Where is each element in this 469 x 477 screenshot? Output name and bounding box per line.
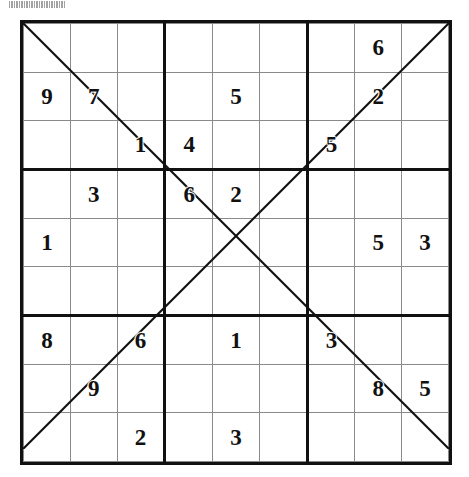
sudoku-cell-r1c5[interactable] xyxy=(213,24,260,73)
sudoku-cell-r6c1[interactable] xyxy=(24,267,71,316)
sudoku-cell-r5c9[interactable]: 3 xyxy=(402,218,449,267)
sudoku-cells-table: 69752145362153861398523 xyxy=(23,23,449,462)
sudoku-cell-r1c7[interactable] xyxy=(307,24,355,73)
sudoku-cell-r2c6[interactable] xyxy=(259,72,307,121)
cell-value: 3 xyxy=(213,426,259,449)
sudoku-cell-r2c4[interactable] xyxy=(165,72,213,121)
sudoku-cell-r4c5[interactable]: 2 xyxy=(213,169,260,218)
sudoku-cell-r8c9[interactable]: 5 xyxy=(402,364,449,413)
sudoku-cell-r3c5[interactable] xyxy=(213,121,260,170)
sudoku-cell-r3c3[interactable]: 1 xyxy=(117,121,165,170)
sudoku-grid[interactable]: 69752145362153861398523 xyxy=(20,20,452,465)
sudoku-cell-r5c4[interactable] xyxy=(165,218,213,267)
sudoku-cell-r9c7[interactable] xyxy=(307,413,355,462)
cell-value: 5 xyxy=(213,85,259,108)
sudoku-cell-r2c8[interactable]: 2 xyxy=(355,72,402,121)
sudoku-cell-r3c9[interactable] xyxy=(402,121,449,170)
sudoku-cell-r3c6[interactable] xyxy=(259,121,307,170)
sudoku-cell-r4c1[interactable] xyxy=(24,169,71,218)
sudoku-cell-r2c2[interactable]: 7 xyxy=(70,72,117,121)
sudoku-cell-r9c8[interactable] xyxy=(355,413,402,462)
sudoku-cell-r7c4[interactable] xyxy=(165,315,213,364)
sudoku-cell-r9c6[interactable] xyxy=(259,413,307,462)
sudoku-cell-r7c1[interactable]: 8 xyxy=(24,315,71,364)
sudoku-cell-r6c6[interactable] xyxy=(259,267,307,316)
sudoku-cell-r9c3[interactable]: 2 xyxy=(117,413,165,462)
sudoku-cell-r1c6[interactable] xyxy=(259,24,307,73)
sudoku-cell-r5c6[interactable] xyxy=(259,218,307,267)
sudoku-cell-r4c8[interactable] xyxy=(355,169,402,218)
scan-smudge-artifact xyxy=(9,1,65,8)
sudoku-cell-r7c6[interactable] xyxy=(259,315,307,364)
cell-value: 2 xyxy=(118,426,164,449)
cell-value: 5 xyxy=(309,133,355,156)
cell-value: 6 xyxy=(355,36,401,59)
sudoku-cell-r1c2[interactable] xyxy=(70,24,117,73)
sudoku-cell-r5c5[interactable] xyxy=(213,218,260,267)
sudoku-cell-r9c5[interactable]: 3 xyxy=(213,413,260,462)
sudoku-cell-r3c1[interactable] xyxy=(24,121,71,170)
cell-value: 9 xyxy=(24,85,70,108)
sudoku-cell-r8c4[interactable] xyxy=(165,364,213,413)
sudoku-cell-r4c3[interactable] xyxy=(117,169,165,218)
sudoku-cell-r2c9[interactable] xyxy=(402,72,449,121)
sudoku-cell-r5c7[interactable] xyxy=(307,218,355,267)
sudoku-cell-r2c1[interactable]: 9 xyxy=(24,72,71,121)
sudoku-cell-r1c9[interactable] xyxy=(402,24,449,73)
sudoku-cell-r3c7[interactable]: 5 xyxy=(307,121,355,170)
sudoku-cell-r7c5[interactable]: 1 xyxy=(213,315,260,364)
sudoku-cell-r1c1[interactable] xyxy=(24,24,71,73)
cell-value: 4 xyxy=(166,133,212,156)
sudoku-cell-r5c3[interactable] xyxy=(117,218,165,267)
cell-value: 6 xyxy=(118,329,164,352)
sudoku-cell-r6c8[interactable] xyxy=(355,267,402,316)
sudoku-cell-r2c7[interactable] xyxy=(307,72,355,121)
sudoku-cell-r6c2[interactable] xyxy=(70,267,117,316)
sudoku-cell-r7c3[interactable]: 6 xyxy=(117,315,165,364)
sudoku-cell-r6c9[interactable] xyxy=(402,267,449,316)
sudoku-row: 9752 xyxy=(24,72,449,121)
sudoku-cell-r6c7[interactable] xyxy=(307,267,355,316)
sudoku-cell-r3c4[interactable]: 4 xyxy=(165,121,213,170)
sudoku-cell-r7c9[interactable] xyxy=(402,315,449,364)
sudoku-cell-r4c6[interactable] xyxy=(259,169,307,218)
sudoku-cell-r5c1[interactable]: 1 xyxy=(24,218,71,267)
cell-value: 7 xyxy=(71,85,117,108)
sudoku-cell-r2c3[interactable] xyxy=(117,72,165,121)
sudoku-cell-r5c2[interactable] xyxy=(70,218,117,267)
sudoku-cell-r4c7[interactable] xyxy=(307,169,355,218)
sudoku-cell-r4c2[interactable]: 3 xyxy=(70,169,117,218)
sudoku-cell-r6c4[interactable] xyxy=(165,267,213,316)
sudoku-cell-r1c3[interactable] xyxy=(117,24,165,73)
sudoku-cell-r8c3[interactable] xyxy=(117,364,165,413)
sudoku-cell-r7c8[interactable] xyxy=(355,315,402,364)
sudoku-cell-r8c1[interactable] xyxy=(24,364,71,413)
sudoku-cell-r8c6[interactable] xyxy=(259,364,307,413)
sudoku-table-body: 69752145362153861398523 xyxy=(24,24,449,462)
sudoku-cell-r8c7[interactable] xyxy=(307,364,355,413)
cell-value: 5 xyxy=(402,377,448,400)
sudoku-cell-r3c2[interactable] xyxy=(70,121,117,170)
cell-value: 8 xyxy=(24,329,70,352)
sudoku-cell-r6c5[interactable] xyxy=(213,267,260,316)
sudoku-cell-r5c8[interactable]: 5 xyxy=(355,218,402,267)
sudoku-row: 362 xyxy=(24,169,449,218)
sudoku-cell-r4c9[interactable] xyxy=(402,169,449,218)
sudoku-cell-r9c2[interactable] xyxy=(70,413,117,462)
sudoku-cell-r6c3[interactable] xyxy=(117,267,165,316)
sudoku-cell-r7c7[interactable]: 3 xyxy=(307,315,355,364)
sudoku-cell-r2c5[interactable]: 5 xyxy=(213,72,260,121)
sudoku-cell-r7c2[interactable] xyxy=(70,315,117,364)
sudoku-cell-r8c8[interactable]: 8 xyxy=(355,364,402,413)
sudoku-cell-r1c4[interactable] xyxy=(165,24,213,73)
cell-value: 5 xyxy=(355,231,401,254)
sudoku-cell-r8c2[interactable]: 9 xyxy=(70,364,117,413)
sudoku-cell-r1c8[interactable]: 6 xyxy=(355,24,402,73)
sudoku-cell-r4c4[interactable]: 6 xyxy=(165,169,213,218)
sudoku-row: 23 xyxy=(24,413,449,462)
sudoku-cell-r9c1[interactable] xyxy=(24,413,71,462)
sudoku-cell-r8c5[interactable] xyxy=(213,364,260,413)
sudoku-cell-r9c4[interactable] xyxy=(165,413,213,462)
sudoku-cell-r9c9[interactable] xyxy=(402,413,449,462)
sudoku-cell-r3c8[interactable] xyxy=(355,121,402,170)
